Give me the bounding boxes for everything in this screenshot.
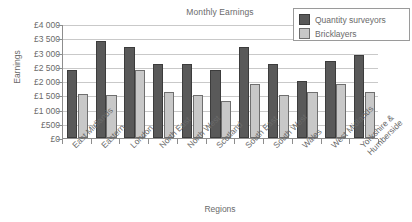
x-tick-mark	[206, 139, 207, 144]
legend: Quantity surveyorsBricklayers	[293, 8, 410, 41]
bar	[153, 64, 163, 138]
legend-label: Quantity surveyors	[315, 15, 386, 25]
legend-swatch	[299, 28, 310, 39]
bar-group	[120, 25, 149, 138]
x-tick-mark	[119, 139, 120, 144]
x-tick-mark	[91, 139, 92, 144]
bar-chart: Monthly Earnings Earnings Regions £0£500…	[0, 0, 412, 222]
bar	[325, 61, 335, 138]
x-tick-mark	[234, 139, 235, 144]
x-tick-mark	[349, 139, 350, 144]
x-tick-mark	[148, 139, 149, 144]
chart-title: Monthly Earnings	[150, 7, 290, 17]
x-tick-mark	[62, 139, 63, 144]
x-tick-mark	[321, 139, 322, 144]
y-axis-title: Earnings	[12, 32, 22, 102]
legend-label: Bricklayers	[315, 29, 357, 39]
legend-item: Quantity surveyors	[299, 13, 386, 26]
bar-group	[149, 25, 178, 138]
x-axis-title: Regions	[150, 204, 290, 214]
bar-group	[322, 25, 351, 138]
x-tick-mark	[177, 139, 178, 144]
legend-item: Bricklayers	[299, 27, 357, 40]
legend-swatch	[299, 14, 310, 25]
bar-group	[63, 25, 92, 138]
x-tick-mark	[263, 139, 264, 144]
bar	[124, 47, 134, 138]
bar	[67, 70, 77, 138]
x-tick-mark	[292, 139, 293, 144]
